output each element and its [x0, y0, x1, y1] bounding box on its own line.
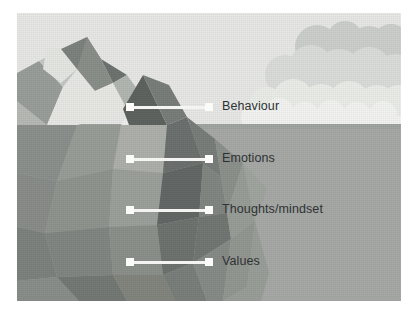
connector-line [134, 106, 208, 109]
marker-right[interactable] [205, 155, 213, 163]
callout-label-behaviour: Behaviour [222, 100, 279, 113]
marker-right[interactable] [205, 258, 213, 266]
connector-line [134, 209, 208, 212]
marker-right[interactable] [205, 103, 213, 111]
callout-label-values: Values [222, 255, 260, 268]
marker-left[interactable] [126, 258, 134, 266]
callout-label-emotions: Emotions [222, 152, 275, 165]
marker-left[interactable] [126, 155, 134, 163]
connector-line [134, 158, 208, 161]
connector-line [134, 261, 208, 264]
marker-left[interactable] [126, 206, 134, 214]
marker-left[interactable] [126, 103, 134, 111]
marker-right[interactable] [205, 206, 213, 214]
diagram-canvas: Behaviour Emotions Thoughts/mindset Valu… [0, 0, 415, 318]
callout-label-thoughts-mindset: Thoughts/mindset [222, 203, 323, 216]
